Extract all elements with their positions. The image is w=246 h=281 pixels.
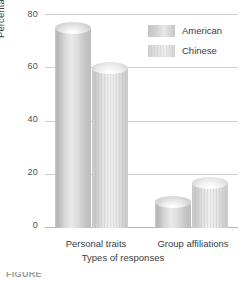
bar-chinese-personal-traits xyxy=(92,62,128,228)
legend: American Chinese xyxy=(148,22,222,62)
clipped-figure-caption: FIGURE xyxy=(6,272,126,281)
bar-body xyxy=(92,68,128,228)
bar-chinese-group-affiliations xyxy=(192,177,228,228)
legend-label-chinese: Chinese xyxy=(182,45,217,56)
y-tick-label-20: 20 xyxy=(14,167,38,177)
y-tick-label-0: 0 xyxy=(14,220,38,230)
legend-label-american: American xyxy=(182,25,222,36)
bar-top-cap xyxy=(92,62,128,74)
bar-body xyxy=(55,28,91,228)
y-tick-label-80: 80 xyxy=(14,9,38,19)
bar-body xyxy=(192,183,228,228)
bar-top-cap xyxy=(55,22,91,34)
legend-swatch-american xyxy=(148,25,175,37)
bar-american-personal-traits xyxy=(55,22,91,228)
y-tick-label-40: 40 xyxy=(14,114,38,124)
clipped-figure-caption-text: FIGURE xyxy=(6,272,126,279)
legend-item-chinese: Chinese xyxy=(148,42,222,59)
gridline-80 xyxy=(45,14,238,15)
y-tick-label-60: 60 xyxy=(14,61,38,71)
x-category-label-personal-traits: Personal traits xyxy=(40,238,152,249)
bar-chart: Percentage of responses 80 60 40 20 0 xyxy=(0,0,246,281)
legend-item-american: American xyxy=(148,22,222,39)
bar-american-group-affiliations xyxy=(155,196,191,228)
bar-top-cap xyxy=(192,177,228,189)
y-axis-title: Percentage of responses xyxy=(0,0,6,38)
x-category-label-group-affiliations: Group affiliations xyxy=(140,238,246,249)
x-axis-title: Types of responses xyxy=(0,252,246,263)
legend-swatch-chinese xyxy=(148,45,175,57)
bar-top-cap xyxy=(155,196,191,208)
